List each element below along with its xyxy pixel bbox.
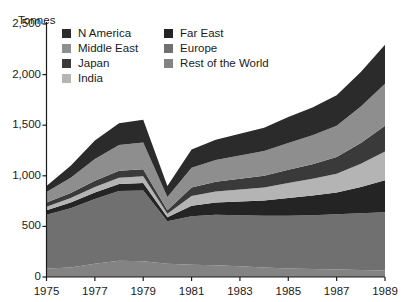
- x-tick-label: 1987: [324, 285, 350, 297]
- legend-item-label: Japan: [78, 57, 109, 69]
- legend-column-2: Far EastEuropeRest of the World: [164, 26, 269, 86]
- legend-swatch-icon: [164, 44, 173, 53]
- legend-swatch-icon: [164, 59, 173, 68]
- x-tick-label: 1985: [275, 285, 301, 297]
- legend-item-label: Far East: [180, 27, 223, 39]
- x-tick-label: 1979: [130, 285, 156, 297]
- legend-item-india[interactable]: India: [62, 71, 138, 85]
- legend-item-rest-of-the-world[interactable]: Rest of the World: [164, 56, 269, 70]
- legend-item-label: N America: [78, 27, 131, 39]
- x-tick-label: 1983: [227, 285, 253, 297]
- stacked-area-chart: Tonnes 05001,0001,5002,0002,500 19751977…: [0, 0, 404, 302]
- x-tick-label: 1989: [372, 285, 398, 297]
- legend-column-1: N AmericaMiddle EastJapanIndia: [62, 26, 138, 86]
- y-tick-label: 2,000: [0, 69, 41, 80]
- y-tick-label: 2,500: [0, 18, 41, 29]
- x-axis-labels: 19751977197919811983198519871989: [0, 282, 404, 302]
- y-tick-label: 500: [0, 220, 41, 231]
- legend-swatch-icon: [62, 59, 71, 68]
- legend-item-middle-east[interactable]: Middle East: [62, 41, 138, 55]
- cut-off-title: [96, 0, 296, 4]
- legend-item-europe[interactable]: Europe: [164, 41, 269, 55]
- legend-swatch-icon: [62, 29, 71, 38]
- x-tick-label: 1981: [179, 285, 205, 297]
- legend-item-label: India: [78, 72, 103, 84]
- legend-swatch-icon: [164, 29, 173, 38]
- y-tick-label: 1,000: [0, 170, 41, 181]
- legend-item-n-america[interactable]: N America: [62, 26, 138, 40]
- legend-item-far-east[interactable]: Far East: [164, 26, 269, 40]
- y-tick-label: 0: [0, 271, 41, 282]
- y-tick-label: 1,500: [0, 119, 41, 130]
- y-axis-labels: 05001,0001,5002,0002,500: [0, 0, 41, 302]
- legend-item-label: Europe: [180, 42, 217, 54]
- chart-legend: N AmericaMiddle EastJapanIndiaFar EastEu…: [62, 26, 269, 86]
- x-tick-label: 1977: [82, 285, 108, 297]
- legend-swatch-icon: [62, 44, 71, 53]
- legend-swatch-icon: [62, 74, 71, 83]
- legend-item-japan[interactable]: Japan: [62, 56, 138, 70]
- legend-item-label: Middle East: [78, 42, 138, 54]
- legend-item-label: Rest of the World: [180, 57, 269, 69]
- x-tick-label: 1975: [34, 285, 60, 297]
